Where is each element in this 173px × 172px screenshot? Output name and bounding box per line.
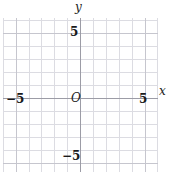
y-tick-label-negative: −5 [62,150,80,162]
grid-and-axes [0,0,173,172]
y-axis-label: y [75,1,82,13]
y-tick-label-positive: 5 [70,26,78,38]
x-tick-label-positive: 5 [139,93,147,105]
x-axis-label: x [159,85,166,97]
x-tick-label-negative: −5 [6,93,24,105]
coordinate-plane-figure: y x 5 −5 −5 5 O [0,0,173,172]
origin-label: O [71,92,81,104]
